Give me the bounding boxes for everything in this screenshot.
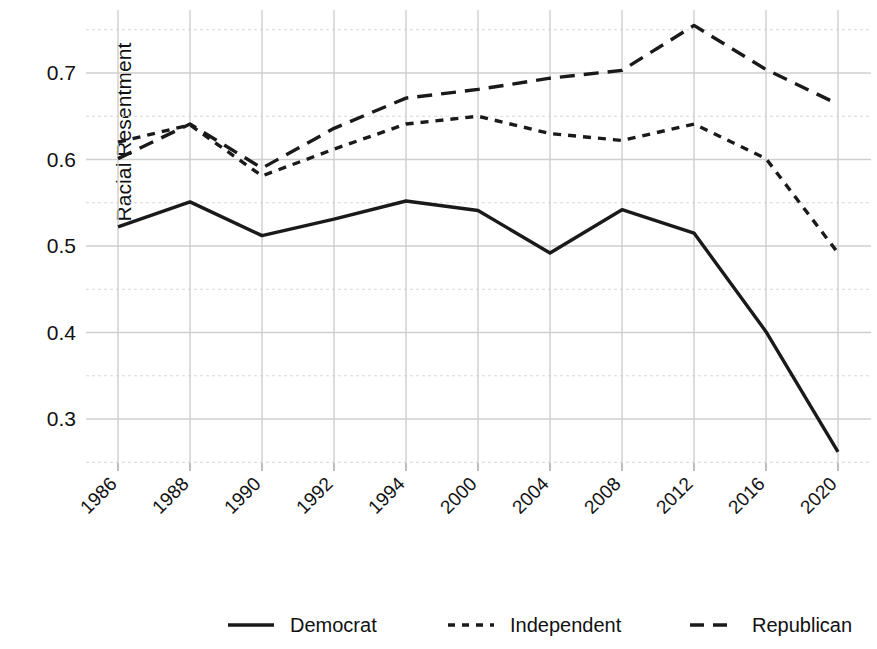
x-tick-label: 2020 bbox=[796, 473, 841, 518]
x-tick-label: 2012 bbox=[652, 473, 697, 518]
legend-label-republican: Republican bbox=[752, 614, 852, 636]
legend-label-independent: Independent bbox=[510, 614, 622, 636]
x-tick-label: 1990 bbox=[220, 473, 265, 518]
y-tick-label: 0.7 bbox=[47, 61, 76, 84]
x-tick-label: 2016 bbox=[724, 473, 769, 518]
x-axis-tick-marks bbox=[118, 463, 838, 471]
x-tick-label: 1986 bbox=[76, 473, 121, 518]
x-tick-label: 1992 bbox=[292, 473, 337, 518]
y-tick-label: 0.4 bbox=[47, 321, 77, 344]
x-tick-label: 2004 bbox=[508, 473, 553, 518]
x-tick-label: 1988 bbox=[148, 473, 193, 518]
chart-figure: Racial Resentment 0.30.40.50.60.7 198619… bbox=[0, 0, 877, 649]
y-axis-tick-labels: 0.30.40.50.60.7 bbox=[47, 61, 77, 430]
grid-vertical-lines bbox=[118, 10, 838, 463]
line-chart-plot: 0.30.40.50.60.7 198619881990199219942000… bbox=[0, 0, 877, 649]
legend-label-democrat: Democrat bbox=[290, 614, 377, 636]
y-tick-label: 0.3 bbox=[47, 407, 76, 430]
x-tick-label: 2000 bbox=[436, 473, 481, 518]
chart-legend: DemocratIndependentRepublican bbox=[228, 614, 852, 636]
x-axis-tick-labels: 1986198819901992199420002004200820122016… bbox=[76, 473, 841, 518]
y-tick-label: 0.6 bbox=[47, 148, 76, 171]
y-tick-label: 0.5 bbox=[47, 234, 76, 257]
x-tick-label: 2008 bbox=[580, 473, 625, 518]
x-tick-label: 1994 bbox=[364, 473, 409, 518]
